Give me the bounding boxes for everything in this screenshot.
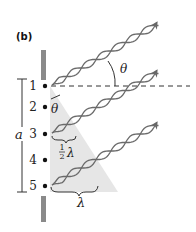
barrier-bottom [41, 196, 46, 222]
half-wavelength-num: 1 [59, 143, 64, 152]
half-wavelength-symbol: λ [66, 146, 75, 160]
angle-label-inner: θ [51, 102, 59, 116]
slit-point-3 [43, 132, 47, 136]
angle-arc-outer [108, 61, 115, 86]
slit-label-5: 5 [29, 179, 37, 193]
slit-point-5 [43, 184, 47, 188]
slit-label-2: 2 [29, 100, 37, 114]
slit-point-1 [43, 84, 47, 88]
single-slit-diffraction-diagram: a (b) 12345 θ θ 1 2 λ λ [0, 0, 196, 232]
slit-label-3: 3 [29, 127, 37, 141]
slit-point-4 [43, 158, 47, 162]
slit-label-4: 4 [29, 153, 37, 167]
slit-width-label: a [15, 127, 23, 142]
wavelength-label: λ [76, 195, 85, 210]
half-wavelength-den: 2 [59, 152, 64, 161]
slit-point-2 [43, 105, 47, 109]
path-difference-triangle [50, 86, 118, 192]
angle-label-outer: θ [120, 62, 128, 76]
panel-label: (b) [16, 31, 32, 42]
barrier-top [41, 50, 46, 80]
slit-label-1: 1 [29, 79, 37, 93]
